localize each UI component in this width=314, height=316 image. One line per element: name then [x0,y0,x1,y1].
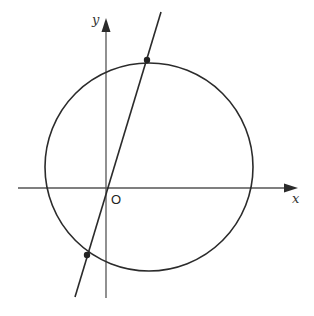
diagram-canvas: y x O [0,0,314,316]
y-axis-label: y [91,12,100,27]
x-axis-label: x [292,191,300,206]
origin-label: O [111,192,121,207]
x-axis [18,184,298,193]
intersection-point-lower [84,252,90,258]
y-axis-arrow-icon [102,18,111,32]
intersection-point-upper [144,57,150,63]
circle [45,63,253,271]
y-axis [102,18,111,298]
